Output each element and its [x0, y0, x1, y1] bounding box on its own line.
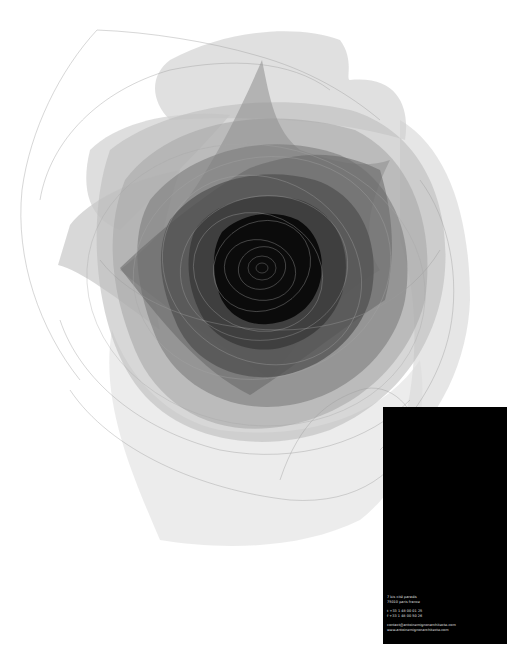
poster: 7 bis cité paradis 75010 paris france t … [0, 0, 523, 656]
contact-card: 7 bis cité paradis 75010 paris france t … [383, 407, 507, 644]
website-link[interactable]: www.antoinemignonarchitecte.com [387, 628, 456, 633]
contact-details: 7 bis cité paradis 75010 paris france t … [387, 595, 456, 633]
